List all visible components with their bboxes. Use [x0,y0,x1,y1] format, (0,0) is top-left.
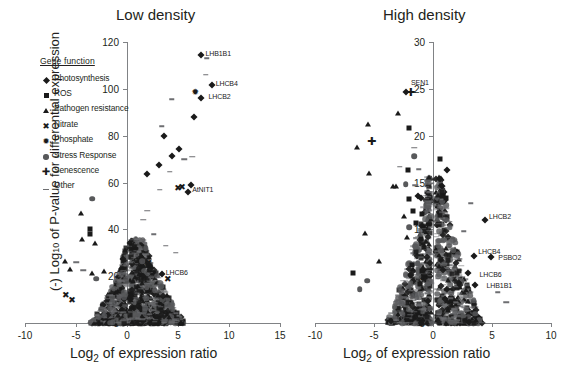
data-point [450,271,455,276]
data-point [127,312,132,317]
x-tick-high [551,323,552,327]
legend-item-label: Stress Response [54,150,116,160]
data-point [162,290,168,292]
data-point-triangle [366,171,372,176]
panel-high-density: High density 051015202530-10-50510✚✚SEN1… [295,0,567,380]
legend-item-label: Pathogen resistance [54,103,128,113]
data-point [427,230,433,232]
data-point [416,230,422,232]
data-point-dash [167,171,173,173]
data-point-dash [495,291,501,293]
data-point [129,270,135,275]
data-point [149,300,155,302]
data-point [417,305,423,307]
legend-item-circle: Stress Response [38,147,150,162]
x-tick-label-low: -10 [18,330,32,341]
data-point-diamond [444,167,451,174]
data-point [137,239,143,241]
data-point [403,322,409,324]
data-point [398,295,404,301]
data-point-dash [190,156,196,158]
data-point [139,277,144,282]
data-point [158,283,164,289]
point-label-LHCB2: LHCB2 [489,213,511,220]
point-label-LHCB4: LHCB4 [478,248,500,255]
data-point-dash [454,256,460,258]
data-point [399,301,405,307]
x-tick-label-high: 10 [545,330,556,341]
data-point-diamond [185,188,192,195]
data-point [435,223,441,225]
legend-gene-function: Gene function PhotosynthesisROSPathogen … [38,56,150,193]
data-point [435,316,441,321]
x-tick-label-high: 5 [489,330,495,341]
data-point [418,316,424,318]
legend-item-label: Nitrate [54,119,78,129]
data-point-square [420,212,425,217]
x-tick-label-low: 15 [274,330,285,341]
data-point-circle [407,225,413,231]
data-point-triangle [395,111,401,116]
data-point-circle [415,260,421,266]
data-point [453,312,459,314]
data-point [410,267,416,272]
data-point [154,280,160,282]
legend-item-label: ROS [54,88,72,98]
data-point-dash [461,230,467,232]
data-point-diamond [160,132,167,139]
point-label-LHCB6: LHCB6 [479,271,501,278]
data-point-triangle [67,267,73,272]
data-point [447,286,453,288]
data-point [456,258,462,260]
legend-item-dash: Other [38,178,150,193]
data-point [437,304,443,306]
point-label-PSBO2: PSBO2 [498,254,521,261]
data-point-square [406,168,411,173]
data-point [140,318,146,320]
data-point [147,313,153,315]
data-point [434,251,440,253]
data-point [122,305,128,307]
data-point [158,306,164,308]
y-tick-label-low: 40 [93,224,119,235]
data-point-square [88,232,93,237]
data-point [92,321,98,323]
data-point [138,249,144,251]
data-point [121,312,127,314]
legend-item-label: Photosynthesis [54,73,109,83]
data-point [428,226,434,228]
data-point [434,205,440,207]
data-point-cross: ✖ [174,184,182,193]
data-point [94,314,100,316]
y-tick-label-high: 20 [399,130,425,141]
y-tick-low [123,42,128,43]
data-point [457,304,463,306]
data-point [113,290,119,295]
data-point-diamond [487,254,494,261]
data-point [106,302,112,304]
point-label-SEN1: SEN1 [411,79,429,86]
data-point [466,310,472,312]
y-tick-high [429,136,434,137]
legend-item-label: Phosphate [54,134,93,144]
data-point [114,322,120,324]
data-point-triangle [404,234,410,239]
data-point-circle [413,243,419,249]
point-label-LHB1B1: LHB1B1 [205,50,230,57]
data-point-dash [159,126,165,128]
data-point-triangle [101,269,107,274]
data-point [101,313,107,319]
data-point [472,311,478,317]
y-tick-high [429,42,434,43]
data-point-square [443,196,448,201]
data-point [448,242,454,244]
data-point [113,305,119,307]
data-point [116,282,122,288]
data-point [150,298,156,300]
panel-low-density: Low density 020406080100120-10-5051015✹✖… [0,0,295,380]
data-point [138,288,144,290]
data-point [426,174,432,179]
data-point-dash [157,189,163,191]
data-point [425,184,431,186]
data-point-triangle [362,231,368,236]
